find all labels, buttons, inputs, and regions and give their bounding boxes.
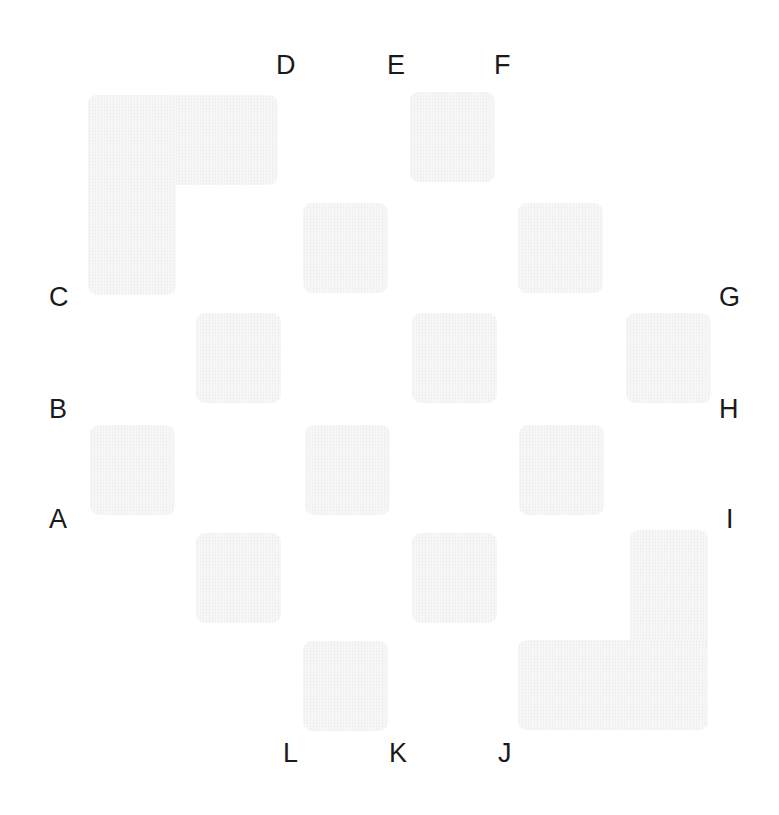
tile-square-b-row-mid[interactable] bbox=[305, 425, 390, 515]
tile-square-e-top[interactable] bbox=[410, 92, 495, 182]
label-c: C bbox=[49, 284, 69, 311]
tile-l-top-left[interactable] bbox=[88, 95, 278, 295]
label-e: E bbox=[387, 52, 406, 79]
tile-l-bottom-right-arm-horizontal bbox=[518, 640, 708, 730]
tile-square-c-row-mid[interactable] bbox=[412, 313, 497, 403]
tile-square-h-row-right[interactable] bbox=[519, 425, 604, 515]
tile-l-bottom-right[interactable] bbox=[518, 530, 708, 730]
tile-l-top-left-arm-vertical bbox=[88, 95, 176, 295]
label-k: K bbox=[389, 740, 408, 767]
label-b: B bbox=[49, 396, 68, 423]
tile-square-b-row-left[interactable] bbox=[90, 425, 175, 515]
label-h: H bbox=[719, 396, 739, 423]
label-f: F bbox=[494, 52, 511, 79]
label-i: I bbox=[726, 506, 734, 533]
label-d: D bbox=[276, 52, 296, 79]
label-l: L bbox=[283, 740, 299, 767]
tile-square-c-row-left[interactable] bbox=[196, 313, 281, 403]
label-a: A bbox=[49, 506, 68, 533]
tile-square-bottom-center[interactable] bbox=[303, 641, 388, 731]
tile-square-g-row-right[interactable] bbox=[626, 313, 711, 403]
puzzle-board: D E F C B A G H I L K J bbox=[0, 0, 779, 815]
label-g: G bbox=[719, 284, 741, 311]
tile-square-a-row-left[interactable] bbox=[196, 533, 281, 623]
tile-square-d-mid[interactable] bbox=[303, 203, 388, 293]
tile-square-a-row-mid[interactable] bbox=[412, 533, 497, 623]
label-j: J bbox=[498, 740, 512, 767]
tile-square-f-mid[interactable] bbox=[518, 203, 603, 293]
